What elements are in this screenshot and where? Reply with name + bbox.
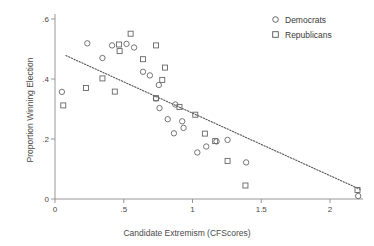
data-point-square [61,103,66,108]
data-point-square [160,77,165,82]
data-point-square [117,49,122,54]
data-point-circle [355,193,360,198]
data-point-circle [204,144,209,149]
data-point-circle [195,150,200,155]
data-point-square [141,57,146,62]
series-democrats [59,41,361,199]
data-point-square [128,31,133,36]
x-tick-label: 1 [190,205,194,214]
legend: Democrats Republicans [268,12,332,42]
data-point-circle [109,43,114,48]
x-tick-label: 0 [53,205,57,214]
data-point-circle [59,89,64,94]
data-point-circle [171,131,176,136]
data-point-circle [179,119,184,124]
data-point-square [116,42,121,47]
data-point-circle [181,125,186,130]
data-point-square [243,183,248,188]
data-point-circle [147,73,152,78]
data-point-circle [157,105,162,110]
data-point-circle [165,117,170,122]
y-axis-label: Proportion Winning Election [25,20,35,200]
legend-label-republicans: Republicans [285,30,332,40]
data-point-square [163,65,168,70]
legend-label-democrats: Democrats [285,15,326,25]
x-tick-label: 2 [328,205,332,214]
y-tick-label: .6 [29,15,49,24]
data-point-square [202,131,207,136]
scatter-plot-figure: Candidate Extremism (CFScores) Proportio… [0,0,374,246]
data-point-circle [243,160,248,165]
data-point-square [83,86,88,91]
y-tick-label: 0 [29,195,49,204]
data-point-circle [124,41,129,46]
circle-marker-icon [268,15,282,24]
data-point-square [154,43,159,48]
data-point-circle [131,45,136,50]
legend-item-democrats: Democrats [268,12,332,27]
y-tick-label: .2 [29,135,49,144]
data-point-square [225,158,230,163]
square-marker-icon [268,30,282,39]
trend-line [66,56,360,190]
data-point-circle [100,55,105,60]
x-tick-label: .5 [120,205,127,214]
data-point-circle [225,137,230,142]
y-tick-label: .4 [29,75,49,84]
legend-item-republicans: Republicans [268,27,332,42]
data-point-square [100,76,105,81]
x-axis-label: Candidate Extremism (CFScores) [0,228,374,238]
x-tick-label: 1.5 [256,205,267,214]
data-point-circle [156,82,161,87]
data-point-circle [140,69,145,74]
data-point-circle [85,41,90,46]
data-point-square [112,89,117,94]
